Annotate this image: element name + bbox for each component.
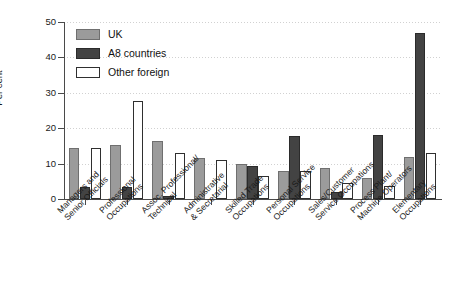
legend-swatch-other-foreign — [76, 67, 100, 78]
legend-item-other-foreign: Other foreign — [76, 64, 169, 80]
legend-label-uk: UK — [108, 29, 123, 40]
bar-group — [236, 22, 269, 199]
y-axis-tick-label: 40 — [34, 52, 56, 62]
y-axis-tick-label: 50 — [34, 17, 56, 27]
legend-label-other-foreign: Other foreign — [108, 67, 169, 78]
chart-legend: UK A8 countries Other foreign — [76, 26, 169, 83]
legend-swatch-uk — [76, 29, 100, 40]
y-axis-tick-label: 10 — [34, 159, 56, 169]
legend-item-uk: UK — [76, 26, 169, 42]
x-axis-labels: Managers andSenior OfficialsProfessional… — [0, 206, 461, 306]
legend-label-a8-countries: A8 countries — [108, 48, 166, 59]
legend-swatch-a8-countries — [76, 48, 100, 59]
legend-item-a8-countries: A8 countries — [76, 45, 169, 61]
y-axis-tick-label: 0 — [34, 194, 56, 204]
y-axis-tick-label: 20 — [34, 123, 56, 133]
bar-chart: Per cent 01020304050 UK A8 countries Oth… — [0, 0, 461, 306]
y-axis-tick-label: 30 — [34, 88, 56, 98]
y-axis-title: Per cent — [0, 70, 4, 105]
